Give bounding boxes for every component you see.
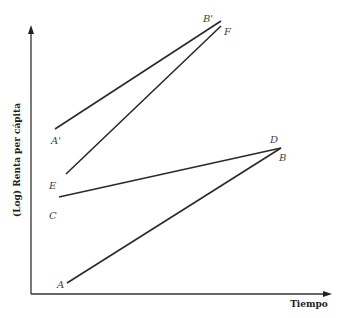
point-labels: ACEA'DBB'F <box>48 13 286 290</box>
growth-chart: (Log) Renta per cápita Tiempo ACEA'DBB'F <box>0 0 348 318</box>
series-line-c-d <box>59 148 281 197</box>
point-label: E <box>48 180 57 191</box>
series-line-e-f <box>66 26 221 174</box>
series-line-a-b <box>67 148 281 283</box>
point-label: A' <box>50 135 61 146</box>
series-line-aprime-bprime <box>55 21 221 129</box>
point-label: B <box>278 152 286 163</box>
y-axis-arrow-icon <box>28 25 34 34</box>
x-axis-title: Tiempo <box>290 299 328 309</box>
point-label: F <box>223 26 232 37</box>
point-label: B' <box>202 13 213 24</box>
point-label: D <box>269 134 278 145</box>
point-label: A <box>56 279 64 290</box>
y-axis-title: (Log) Renta per cápita <box>12 103 22 217</box>
series-lines <box>55 21 281 283</box>
point-label: C <box>49 210 57 221</box>
x-axis-arrow-icon <box>323 291 332 297</box>
